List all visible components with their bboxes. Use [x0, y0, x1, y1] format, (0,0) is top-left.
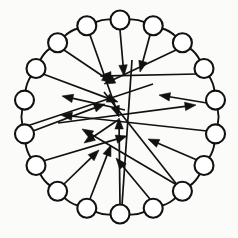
ring-graph-svg	[0, 0, 238, 238]
ring-edge	[209, 143, 214, 157]
arrow-head-icon	[115, 135, 127, 143]
node-circle[interactable]	[48, 33, 67, 52]
node-circle[interactable]	[195, 156, 214, 175]
graph-node[interactable]	[27, 156, 46, 175]
node-circle[interactable]	[27, 156, 46, 175]
vector-shaft	[109, 74, 197, 76]
node-circle[interactable]	[144, 199, 163, 218]
chord-layer	[27, 60, 178, 205]
ring-edge	[40, 48, 50, 60]
arrow-head-icon	[185, 102, 196, 110]
node-circle[interactable]	[173, 33, 192, 52]
ring-edge	[65, 29, 78, 37]
vector-shaft	[120, 30, 123, 67]
ring-edge	[40, 174, 50, 186]
ring-edge	[129, 19, 144, 22]
vector-shaft	[91, 120, 118, 138]
graph-node[interactable]	[15, 91, 34, 110]
arrow-head-icon	[159, 93, 171, 101]
node-circle[interactable]	[206, 91, 225, 110]
vector-shaft	[90, 134, 177, 185]
ring-edge	[162, 198, 175, 206]
vector-shaft	[142, 35, 150, 63]
graph-node[interactable]	[173, 33, 192, 52]
ring-edge	[96, 212, 111, 215]
graph-node[interactable]	[48, 33, 67, 52]
vector-shaft	[63, 156, 93, 185]
ring-edge	[190, 174, 200, 186]
ring-edge	[218, 109, 219, 124]
graph-node[interactable]	[195, 59, 214, 78]
node-circle[interactable]	[77, 199, 96, 218]
direction-vector	[63, 150, 99, 185]
node-circle[interactable]	[15, 91, 34, 110]
ring-edge	[21, 109, 22, 124]
vector-shaft	[64, 50, 106, 78]
ring-edge	[26, 76, 31, 90]
node-circle[interactable]	[195, 59, 214, 78]
arrow-head-icon	[62, 94, 74, 102]
vector-shaft	[168, 96, 207, 103]
vector-shaft	[43, 74, 110, 99]
node-circle[interactable]	[111, 11, 130, 30]
direction-vector	[61, 112, 207, 131]
arrow-head-icon	[148, 139, 160, 147]
ring-edge	[65, 198, 78, 206]
ring-edge	[162, 29, 175, 37]
graph-node[interactable]	[77, 16, 96, 35]
node-circle[interactable]	[206, 124, 225, 143]
node-circle[interactable]	[27, 59, 46, 78]
vector-layer	[33, 30, 207, 205]
graph-node[interactable]	[111, 205, 130, 224]
ring-edge	[190, 48, 200, 60]
node-circle[interactable]	[77, 16, 96, 35]
arrow-head-icon	[103, 145, 111, 157]
arrow-head-icon	[115, 118, 123, 129]
ring-edge	[209, 76, 214, 90]
direction-vector	[104, 50, 176, 84]
direction-vector	[159, 93, 207, 103]
vector-shaft	[90, 153, 108, 199]
graph-node[interactable]	[27, 59, 46, 78]
graph-node[interactable]	[15, 124, 34, 143]
ring-edge	[26, 143, 31, 157]
node-circle[interactable]	[144, 16, 163, 35]
node-circle[interactable]	[15, 124, 34, 143]
vector-shaft	[156, 143, 197, 160]
chord-line	[27, 84, 153, 126]
ring-edge	[129, 212, 144, 215]
vector-shaft	[122, 165, 150, 199]
graph-node[interactable]	[144, 199, 163, 218]
ring-edge	[96, 19, 111, 22]
graph-node[interactable]	[206, 91, 225, 110]
diagram-canvas: Ring graph with radiating direction vect…	[0, 0, 238, 238]
graph-node[interactable]	[173, 182, 192, 201]
graph-node[interactable]	[206, 124, 225, 143]
direction-vector	[82, 129, 177, 185]
node-circle[interactable]	[173, 182, 192, 201]
graph-node[interactable]	[77, 199, 96, 218]
node-circle[interactable]	[48, 182, 67, 201]
arrow-head-icon	[84, 133, 95, 143]
graph-node[interactable]	[195, 156, 214, 175]
graph-node[interactable]	[48, 182, 67, 201]
direction-vector	[119, 30, 127, 76]
direction-vector	[116, 158, 150, 199]
graph-node[interactable]	[111, 11, 130, 30]
node-circle[interactable]	[111, 205, 130, 224]
vector-shaft	[90, 35, 116, 109]
chord-line	[122, 60, 132, 205]
graph-node[interactable]	[144, 16, 163, 35]
